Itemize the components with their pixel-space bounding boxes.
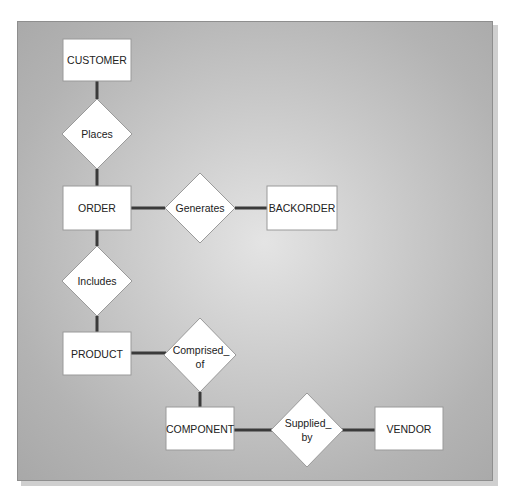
label-generates: Generates <box>175 202 224 214</box>
connector-lines <box>97 81 375 430</box>
label-backorder: BACKORDER <box>269 202 336 214</box>
label-comprised-line1: Comprised_ <box>173 344 230 356</box>
label-places: Places <box>81 128 113 140</box>
label-includes: Includes <box>77 275 116 287</box>
relationship-supplied-by[interactable] <box>271 393 343 467</box>
label-supplied-line2: by <box>301 431 313 443</box>
label-order: ORDER <box>78 202 116 214</box>
label-product: PRODUCT <box>71 348 124 360</box>
label-vendor: VENDOR <box>387 423 432 435</box>
label-component: COMPONENT <box>166 423 235 435</box>
label-supplied-line1: Supplied_ <box>285 417 332 429</box>
label-customer: CUSTOMER <box>67 54 127 66</box>
label-comprised-line2: of <box>196 358 205 370</box>
er-diagram: CUSTOMER ORDER BACKORDER PRODUCT COMPONE… <box>0 0 513 497</box>
